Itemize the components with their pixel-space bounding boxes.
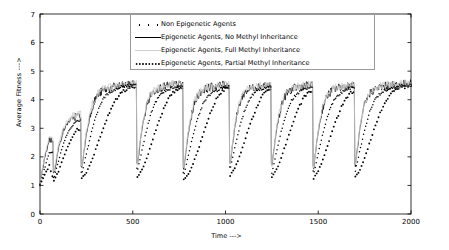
x-tick-label: 2000: [402, 218, 420, 226]
x-tick-label: 500: [126, 218, 139, 226]
x-tick-label: 1000: [217, 218, 235, 226]
y-tick-label: 6: [31, 39, 36, 47]
legend-item-no-methyl: Epigenetic Agents, No Methyl Inheritance: [135, 31, 370, 44]
legend-item-partial-methyl: Epigenetic Agents, Partial Methyl Inheri…: [135, 57, 370, 70]
series-2: [40, 79, 411, 185]
light-line-icon: [135, 44, 161, 57]
sparse-dots-icon: [135, 18, 161, 31]
y-tick-label: 1: [31, 182, 35, 190]
legend-label: Non Epigenetic Agents: [161, 18, 236, 31]
series-1: [40, 80, 411, 186]
y-tick-label: 2: [31, 153, 35, 161]
x-tick-label: 1500: [309, 218, 327, 226]
y-tick-label: 3: [31, 125, 35, 133]
dotted-line-icon: [135, 57, 161, 70]
chart-figure: 050010001500200001234567 Average Fitness…: [0, 0, 449, 250]
series-group: [39, 79, 412, 186]
y-tick-label: 7: [31, 11, 35, 19]
chart-legend: Non Epigenetic Agents Epigenetic Agents,…: [130, 14, 375, 70]
legend-label: Epigenetic Agents, Partial Methyl Inheri…: [161, 57, 310, 70]
y-tick-label: 0: [31, 211, 35, 219]
x-axis-label-text: Time --->: [211, 232, 241, 240]
y-tick-label: 5: [31, 68, 35, 76]
x-tick-label: 0: [38, 218, 42, 226]
legend-label: Epigenetic Agents, No Methyl Inheritance: [161, 31, 298, 44]
y-axis-label: Average Fitness --->: [15, 37, 23, 147]
legend-label: Epigenetic Agents, Full Methyl Inheritan…: [161, 44, 300, 57]
y-tick-label: 4: [31, 96, 36, 104]
solid-line-icon: [135, 31, 161, 44]
x-axis-label: Time --->: [0, 232, 449, 240]
legend-item-full-methyl: Epigenetic Agents, Full Methyl Inheritan…: [135, 44, 370, 57]
legend-item-non-epigenetic: Non Epigenetic Agents: [135, 18, 370, 31]
